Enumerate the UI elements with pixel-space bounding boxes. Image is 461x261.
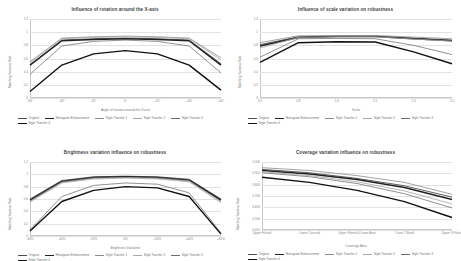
legend-swatch [275, 254, 284, 255]
legend-item[interactable]: Style Transfer 4 [248, 121, 280, 126]
y-tick-label: 1 [26, 172, 28, 176]
x-tick-label: -20% [90, 238, 97, 242]
legend-label: Style Transfer 2 [144, 253, 165, 258]
series-lines [262, 162, 452, 230]
y-tick-label: 0.700 [252, 194, 260, 198]
x-tick-label: +60% [217, 238, 225, 242]
legend-swatch [363, 254, 372, 255]
legend-swatch [401, 254, 410, 255]
plot-area: 1.210.80.60.40.20 0.50.81.01.52.02.5 [260, 19, 452, 98]
series-line [30, 39, 221, 65]
legend-swatch [325, 118, 334, 119]
x-axis-label: Angle of rotation around the X-axis [30, 108, 221, 112]
legend-label: Style Transfer 3 [182, 253, 203, 258]
legend-swatch [133, 118, 142, 119]
legend-swatch [363, 118, 372, 119]
legend-label: Style Transfer 3 [412, 252, 433, 257]
legend-item[interactable]: Style Transfer 3 [401, 252, 433, 257]
series-lines [260, 19, 452, 98]
x-tick-label: Upper Fileted & Lower Area [338, 232, 375, 236]
y-tick-label: 0.8 [24, 43, 28, 47]
legend-item[interactable]: Style Transfer 1 [95, 253, 127, 258]
x-tick-label: -60% [26, 238, 33, 242]
chart-title: Brightness variation influence on robust… [0, 150, 230, 155]
legend-item[interactable]: Style Transfer 3 [171, 253, 203, 258]
x-axis-label: Brightness Variations [30, 246, 221, 250]
x-tick-label: +20% [153, 238, 161, 242]
chart-legend: OriginalHistogram EnhancementStyle Trans… [248, 252, 451, 261]
plot-area: 1.210.80.60.40.20 -60°-40°-20°0°+20°+40°… [30, 19, 221, 98]
legend-item[interactable]: Style Transfer 2 [133, 116, 165, 121]
x-tick-label: 2.0 [411, 100, 415, 104]
x-tick-label: +40° [186, 100, 192, 104]
y-tick-label: 1.2 [254, 17, 258, 21]
x-tick-label: 0.8 [296, 100, 300, 104]
series-line [30, 183, 221, 233]
y-tick-label: 0.6 [254, 57, 258, 61]
legend-item[interactable]: Style Transfer 2 [363, 116, 395, 121]
legend-item[interactable]: Histogram Enhancement [45, 116, 89, 121]
x-tick-label: 0° [124, 100, 127, 104]
series-line [30, 187, 221, 234]
chart-title: Coverage variation influence on robustne… [230, 150, 461, 155]
plot-area: 1.0000.9000.8000.7000.6000.5000.400 Uppe… [262, 162, 452, 230]
series-line [30, 176, 221, 199]
y-tick-label: 0.6 [24, 197, 28, 201]
x-tick-label: +40% [185, 238, 193, 242]
x-tick-label: -40% [58, 238, 65, 242]
legend-item[interactable]: Histogram Enhancement [45, 253, 89, 258]
legend-swatch [95, 118, 104, 119]
legend-item[interactable]: Style Transfer 4 [248, 257, 280, 261]
figure-grid: Influence of rotation around the X-axis … [0, 0, 461, 261]
legend-item[interactable]: Style Transfer 1 [95, 116, 127, 121]
legend-swatch [325, 254, 334, 255]
chart-legend: OriginalHistogram EnhancementStyle Trans… [248, 116, 451, 125]
x-axis-label: Coverage Area [260, 244, 452, 248]
legend-swatch [18, 123, 27, 124]
x-tick-label: 0.5 [258, 100, 262, 104]
x-tick-label: Cover 2 Band [395, 232, 414, 236]
legend-label: Style Transfer 2 [374, 116, 395, 121]
chart-title: Influence of scale variation on robustne… [230, 7, 461, 12]
legend-label: Style Transfer 1 [336, 116, 357, 121]
legend-item[interactable]: Style Transfer 2 [133, 253, 165, 258]
legend-swatch [45, 118, 54, 119]
legend-label: Style Transfer 3 [182, 116, 203, 121]
chart-panel-coverage: Coverage variation influence on robustne… [230, 130, 461, 261]
y-tick-label: 0.4 [254, 70, 258, 74]
y-axis-label: Matching Success Rate [236, 198, 240, 231]
y-tick-label: 0.600 [252, 205, 260, 209]
legend-item[interactable]: Style Transfer 2 [363, 252, 395, 257]
legend-item[interactable]: Style Transfer 4 [18, 121, 50, 126]
legend-item[interactable]: Style Transfer 3 [171, 116, 203, 121]
y-tick-label: 0.6 [24, 57, 28, 61]
legend-swatch [248, 118, 257, 119]
legend-item[interactable]: Histogram Enhancement [275, 116, 319, 121]
y-tick-label: 0.2 [254, 83, 258, 87]
legend-item[interactable]: Histogram Enhancement [275, 252, 319, 257]
y-tick-label: 1.000 [252, 160, 260, 164]
x-tick-label: -20° [91, 100, 97, 104]
y-tick-label: 0.4 [24, 70, 28, 74]
legend-label: Style Transfer 4 [29, 121, 50, 126]
series-lines [30, 19, 221, 98]
chart-panel-scale: Influence of scale variation on robustne… [230, 0, 461, 130]
legend-item[interactable]: Style Transfer 3 [401, 116, 433, 121]
y-axis-label: Matching Success Rate [238, 56, 242, 89]
legend-item[interactable]: Style Transfer 1 [325, 116, 357, 121]
legend-item[interactable]: Style Transfer 1 [325, 252, 357, 257]
legend-label: Histogram Enhancement [56, 253, 90, 258]
legend-swatch [275, 118, 284, 119]
legend-swatch [171, 255, 180, 256]
chart-title: Influence of rotation around the X-axis [0, 7, 230, 12]
legend-swatch [18, 255, 27, 256]
series-lines [30, 162, 221, 236]
series-line [260, 42, 452, 64]
y-tick-label: 0.2 [24, 222, 28, 226]
legend-label: Style Transfer 4 [259, 121, 280, 126]
legend-label: Style Transfer 1 [106, 116, 127, 121]
legend-swatch [95, 255, 104, 256]
y-tick-label: 0.8 [24, 185, 28, 189]
legend-swatch [248, 259, 257, 260]
legend-label: Style Transfer 2 [144, 116, 165, 121]
